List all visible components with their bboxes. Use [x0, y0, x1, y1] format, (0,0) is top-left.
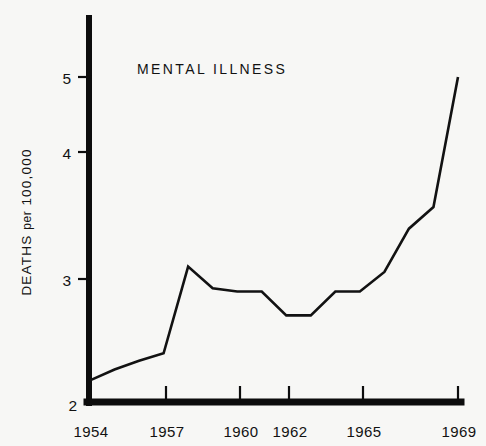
x-tick-label-1957: 1957	[150, 423, 185, 440]
chart-title: MENTAL ILLNESS	[137, 61, 287, 77]
x-tick-label-1954: 1954	[74, 423, 109, 440]
x-tick-label-1962: 1962	[273, 423, 308, 440]
x-tick-label-1960: 1960	[224, 423, 259, 440]
y-tick-label-5: 5	[62, 70, 71, 87]
y-tick-label-4: 4	[62, 145, 71, 162]
y-axis-title-tail: 100,000	[19, 148, 34, 205]
chart-page: 5 4 3 2 1954 1957 1960 1962 1965 1969 ME…	[0, 0, 486, 446]
y-tick-label-3: 3	[62, 272, 71, 289]
y-axis-title-group: DEATHS per 100,000	[19, 148, 34, 295]
y-axis-title: DEATHS per 100,000	[19, 148, 34, 295]
x-tick-label-1969: 1969	[442, 423, 477, 440]
y-axis-title-lead: DEATHS	[19, 235, 34, 296]
y-tick-label-2: 2	[68, 397, 77, 414]
y-axis-title-mid: per	[20, 211, 34, 230]
line-chart: 5 4 3 2 1954 1957 1960 1962 1965 1969 ME…	[0, 0, 486, 446]
x-tick-label-1965: 1965	[347, 423, 382, 440]
